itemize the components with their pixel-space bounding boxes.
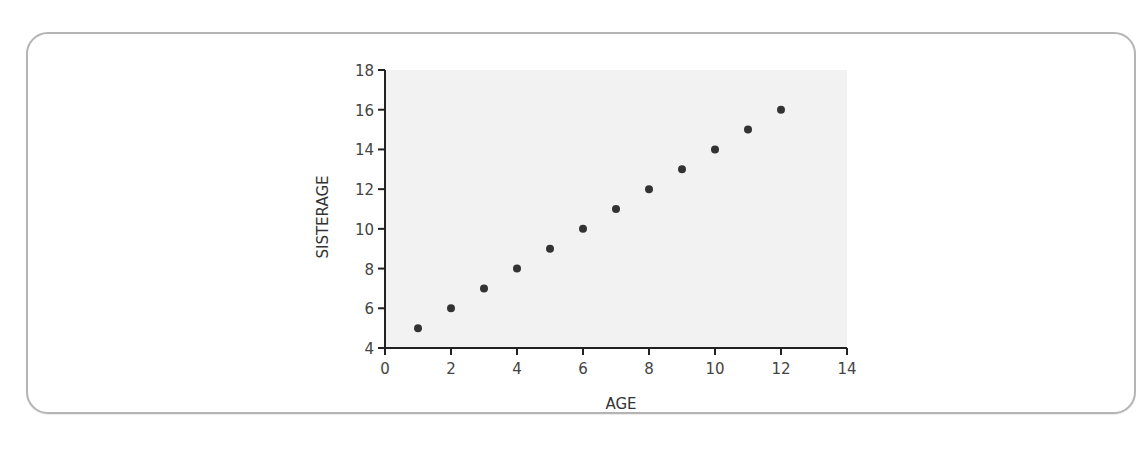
y-tick-label: 16 xyxy=(355,102,374,120)
y-tick-label: 18 xyxy=(355,62,374,80)
data-point xyxy=(645,185,653,193)
data-point xyxy=(447,304,455,312)
data-point xyxy=(744,126,752,134)
x-tick-label: 2 xyxy=(446,360,456,378)
x-tick-label: 8 xyxy=(644,360,654,378)
data-point xyxy=(678,165,686,173)
data-point xyxy=(579,225,587,233)
y-tick-label: 12 xyxy=(355,181,374,199)
data-point xyxy=(546,245,554,253)
y-tick-label: 14 xyxy=(355,141,374,159)
y-tick-label: 10 xyxy=(355,221,374,239)
x-tick-label: 10 xyxy=(705,360,724,378)
x-axis-label: AGE xyxy=(605,395,636,413)
x-tick-label: 0 xyxy=(380,360,390,378)
x-tick-label: 12 xyxy=(771,360,790,378)
data-point xyxy=(711,145,719,153)
y-tick-label: 4 xyxy=(364,340,374,358)
data-point xyxy=(414,324,422,332)
y-tick-label: 8 xyxy=(364,261,374,279)
data-point xyxy=(777,106,785,114)
y-axis-label: SISTERAGE xyxy=(314,175,332,258)
x-axis-ticks: 02468101214 xyxy=(380,348,856,378)
x-tick-label: 14 xyxy=(837,360,856,378)
y-tick-label: 6 xyxy=(364,300,374,318)
data-point xyxy=(612,205,620,213)
x-tick-label: 6 xyxy=(578,360,588,378)
x-tick-label: 4 xyxy=(512,360,522,378)
data-point xyxy=(480,284,488,292)
y-axis-ticks: 4681012141618 xyxy=(355,62,385,358)
data-point xyxy=(513,265,521,273)
